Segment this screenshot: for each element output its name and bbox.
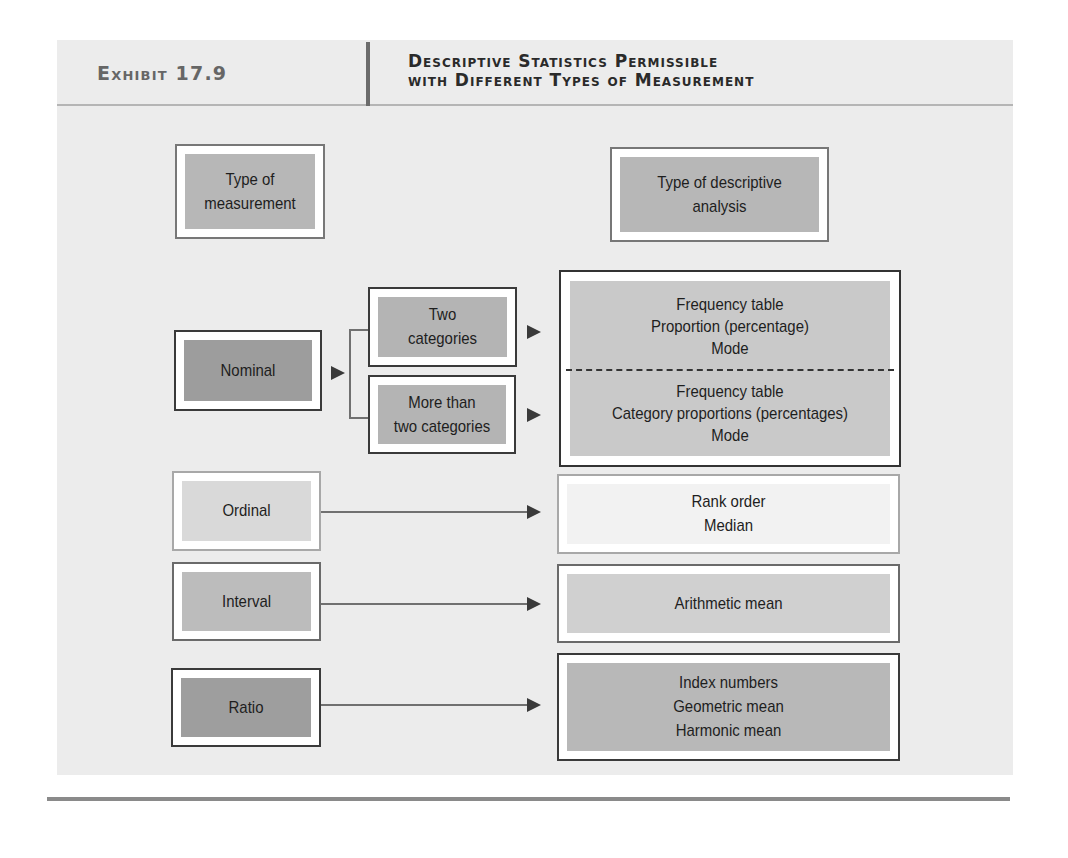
two-categories-label: Two categories — [386, 297, 500, 357]
nominal-box: Nominal — [174, 330, 322, 411]
header-divider — [366, 42, 370, 106]
exhibit-label: Exhibit 17.9 — [97, 62, 227, 84]
interval-label: Interval — [190, 572, 304, 631]
header-measurement-text: Type of measurement — [193, 154, 307, 229]
arrow-line — [321, 511, 529, 513]
nominal-analysis-box: Frequency table Proportion (percentage) … — [559, 270, 901, 467]
ordinal-analysis: Rank order Median — [586, 484, 870, 544]
ratio-analysis-box: Index numbers Geometric mean Harmonic me… — [557, 653, 900, 761]
header-rule — [57, 104, 1013, 106]
exhibit-title-line2: with Different Types of Measurement — [408, 71, 754, 90]
more-than-two-categories-box: More than two categories — [368, 375, 516, 454]
interval-analysis: Arithmetic mean — [586, 574, 870, 633]
arrow-line — [321, 704, 529, 706]
ratio-analysis: Index numbers Geometric mean Harmonic me… — [586, 663, 870, 751]
ordinal-box: Ordinal — [172, 471, 321, 551]
bracket-bottom — [349, 417, 369, 419]
dashed-divider — [566, 369, 894, 371]
header-type-of-analysis: Type of descriptive analysis — [610, 147, 829, 242]
nominal-label: Nominal — [192, 340, 305, 401]
ratio-box: Ratio — [171, 668, 321, 747]
more-than-two-categories-label: More than two categories — [386, 385, 499, 444]
more-than-two-categories-analysis: Frequency table Category proportions (pe… — [589, 373, 871, 455]
exhibit-title: Descriptive Statistics Permissible with … — [408, 52, 754, 90]
ordinal-label: Ordinal — [190, 481, 304, 541]
two-categories-box: Two categories — [368, 287, 517, 367]
arrow-head-icon — [527, 325, 541, 339]
ratio-label: Ratio — [189, 678, 303, 737]
ordinal-analysis-box: Rank order Median — [557, 474, 900, 554]
interval-analysis-box: Arithmetic mean — [557, 564, 900, 643]
exhibit-title-line1: Descriptive Statistics Permissible — [408, 52, 754, 71]
two-categories-analysis: Frequency table Proportion (percentage) … — [589, 286, 871, 368]
header-type-of-measurement: Type of measurement — [175, 144, 325, 239]
arrow-head-icon — [527, 505, 541, 519]
arrow-head-icon — [527, 597, 541, 611]
interval-box: Interval — [172, 562, 321, 641]
arrow-head-icon — [331, 366, 345, 380]
bracket-top — [349, 329, 369, 331]
arrow-line — [321, 603, 529, 605]
arrow-head-icon — [527, 698, 541, 712]
bottom-rule — [47, 797, 1010, 801]
header-analysis-text: Type of descriptive analysis — [632, 157, 807, 232]
arrow-head-icon — [527, 408, 541, 422]
bracket-vertical — [349, 329, 351, 419]
